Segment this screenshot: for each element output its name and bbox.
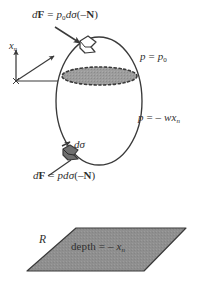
force-top-equals: =	[44, 8, 56, 20]
force-top-dsigma: dσ	[66, 8, 77, 20]
area-element-label: dσ	[74, 139, 85, 150]
force-bottom-dsigma: dσ	[63, 169, 74, 181]
region-R-label: R	[39, 234, 46, 246]
depth-equals: = –	[96, 240, 116, 252]
force-top-label: dF = p0dσ(–N)	[32, 9, 98, 20]
pressure-top-p0-subscript: 0	[163, 56, 167, 64]
axis-xn-subscript: n	[14, 45, 17, 52]
pressure-side-w: w	[164, 111, 171, 123]
pressure-side-equals: = –	[144, 111, 164, 123]
pressure-side-x-subscript: n	[177, 117, 181, 125]
depth-word: depth	[71, 240, 96, 252]
coordinate-axes	[13, 50, 62, 84]
hydrostatic-pressure-figure: dF = p0dσ(–N) xn p = p0 p = – wxn dσ dF …	[0, 0, 198, 287]
force-top-leader-arrow	[55, 27, 80, 43]
axis-diagonal-arrow	[16, 56, 54, 81]
axis-xn-label: xn	[9, 41, 17, 52]
force-bottom-label: dF = pdσ(–N)	[33, 170, 95, 181]
pressure-side-label: p = – wxn	[138, 112, 180, 123]
force-bottom-equals: =	[45, 169, 57, 181]
force-top-paren-open: (–	[77, 8, 86, 20]
depth-label: depth = – xn	[71, 241, 125, 252]
pressure-top-label: p = p0	[140, 51, 167, 62]
force-bottom-paren-open: (–	[74, 169, 83, 181]
pressure-top-equals: =	[146, 50, 158, 62]
force-top-paren-close: )	[94, 8, 98, 20]
force-bottom-paren-close: )	[92, 169, 96, 181]
force-bottom-normal-N: N	[84, 169, 92, 181]
depth-x-subscript: n	[121, 246, 125, 254]
